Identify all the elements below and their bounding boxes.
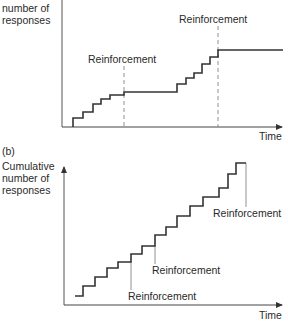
chart-a-xlabel: Time: [259, 130, 282, 142]
chart-b-ylabel-line3: responses: [2, 184, 50, 196]
chart-a-ylabel-line2: responses: [2, 14, 50, 26]
chart-a-guides: [124, 26, 218, 127]
chart-a-ylabel-line1: number of: [2, 2, 49, 14]
chart-a-reinforcement-label-2: Reinforcement: [179, 13, 247, 25]
chart-b-ylabel-line2: number of: [2, 172, 49, 184]
chart-b-panel-label: (b): [2, 145, 15, 157]
chart-b-step-line: [75, 163, 246, 296]
chart-b-axes: [64, 167, 282, 305]
chart-b-reinforcement-label-2: Reinforcement: [152, 264, 220, 276]
chart-b-reinforcement-label-1: Reinforcement: [128, 290, 196, 302]
chart-b-ylabel-line1: Cumulative: [2, 160, 55, 172]
chart-b-reinforcement-label-3: Reinforcement: [213, 207, 281, 219]
chart-a-reinforcement-label-1: Reinforcement: [88, 53, 156, 65]
chart-b-xlabel: Time: [259, 309, 282, 321]
